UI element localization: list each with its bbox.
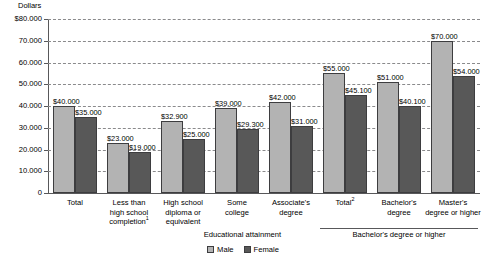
legend-item-female[interactable]: Female: [244, 245, 279, 254]
y-tick-mark: [44, 193, 48, 194]
y-tick-label: 40.000: [19, 101, 42, 110]
y-tick-label: 50.000: [19, 79, 42, 88]
bar-value-label: $31.000: [291, 117, 318, 126]
bracket-line: [320, 228, 478, 229]
y-axis-unit-label: Dollars: [18, 1, 41, 10]
bar-value-label: $42.000: [269, 93, 296, 102]
bar-group: $40.000$35.000: [48, 19, 102, 193]
x-axis-category-label: Master'sdegree or higher: [420, 198, 486, 217]
y-tick-label: 20.000: [19, 145, 42, 154]
bar-male[interactable]: $55.000: [323, 73, 345, 193]
bar-female[interactable]: $40.100: [399, 106, 421, 193]
bar-male[interactable]: $70.000: [431, 41, 453, 193]
footnote-marker-2: 2: [352, 196, 355, 202]
bar-value-label: $35.000: [75, 108, 102, 117]
legend-label-female: Female: [254, 245, 279, 254]
legend-item-male[interactable]: Male: [207, 245, 233, 254]
bar-value-label: $54.000: [453, 67, 480, 76]
y-tick-label: 10.000: [19, 166, 42, 175]
footnote-marker-1: 1: [146, 215, 149, 221]
bar-male[interactable]: $23.000: [107, 143, 129, 193]
bar-male[interactable]: $42.000: [269, 102, 291, 193]
bar-male[interactable]: $40.000: [53, 106, 75, 193]
legend-swatch-female-icon: [244, 246, 251, 253]
bar-female[interactable]: $29.300: [237, 129, 259, 193]
bar-value-label: $51.000: [377, 73, 404, 82]
bar-group: $32.900$25.000: [156, 19, 210, 193]
bar-group: $23.000$19.000: [102, 19, 156, 193]
bar-group: $55.000$45.100: [318, 19, 372, 193]
bar-value-label: $70.000: [431, 32, 458, 41]
bar-male[interactable]: $51.000: [377, 82, 399, 193]
bar-group: $42.000$31.000: [264, 19, 318, 193]
bar-chart: Dollars 010.00020.00030.00040.00050.0006…: [0, 0, 486, 266]
bar-female[interactable]: $45.100: [345, 95, 367, 193]
bar-value-label: $32.900: [161, 112, 188, 121]
y-tick-label: 0: [38, 188, 42, 197]
bar-male[interactable]: $39.000: [215, 108, 237, 193]
bar-value-label: $39.000: [215, 99, 242, 108]
bar-value-label: $40.100: [399, 97, 426, 106]
bar-value-label: $55.000: [323, 64, 350, 73]
bar-male[interactable]: $32.900: [161, 121, 183, 193]
bar-group: $39.000$29.300: [210, 19, 264, 193]
x-axis-line: [48, 193, 480, 194]
bar-value-label: $40.000: [53, 97, 80, 106]
y-tick-label: 30.000: [19, 123, 42, 132]
bar-value-label: $45.100: [345, 86, 372, 95]
bar-value-label: $25.000: [183, 130, 210, 139]
bar-value-label: $29.300: [237, 120, 264, 129]
legend-label-male: Male: [217, 245, 233, 254]
bar-group: $70.000$54.000: [426, 19, 480, 193]
legend-swatch-male-icon: [207, 246, 214, 253]
plot-area: 010.00020.00030.00040.00050.00060.00070.…: [48, 19, 480, 193]
y-tick-label: 60.000: [19, 58, 42, 67]
bar-value-label: $23.000: [107, 134, 134, 143]
bar-group: $51.000$40.100: [372, 19, 426, 193]
bracket-label: Bachelor's degree or higher: [320, 230, 478, 240]
x-axis-title: Educational attainment: [156, 230, 329, 240]
bar-female[interactable]: $54.000: [453, 76, 475, 193]
y-tick-label: $80.000: [15, 14, 42, 23]
y-tick-label: 70.000: [19, 36, 42, 45]
bar-female[interactable]: $31.000: [291, 126, 313, 193]
chart-legend: Male Female: [0, 245, 486, 254]
bar-value-label: $19.000: [129, 143, 156, 152]
bar-female[interactable]: $25.000: [183, 139, 205, 193]
bar-female[interactable]: $35.000: [75, 117, 97, 193]
bar-female[interactable]: $19.000: [129, 152, 151, 193]
